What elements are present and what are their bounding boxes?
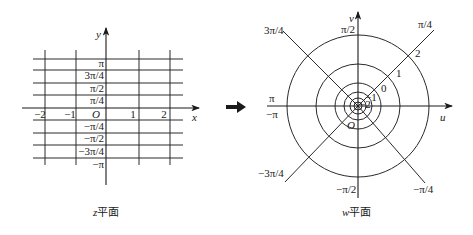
- z-y-tick: 3π/4: [84, 69, 104, 81]
- w-plane-caption: w平面: [342, 206, 371, 218]
- mapping-diagram: y x π 3π/4 π/2 π/4 O −π/4 −π/2 −3π/4 −π …: [0, 0, 473, 235]
- z-x-tick: 2: [161, 108, 167, 120]
- z-y-tick: −π/4: [84, 120, 105, 132]
- z-plane-caption: z平面: [92, 206, 119, 218]
- w-angle-label-bottom: −π/2: [336, 183, 356, 195]
- w-circle-label: 2: [415, 47, 421, 59]
- z-x-tick: −2: [34, 108, 46, 120]
- z-caption-text: 平面: [97, 206, 119, 218]
- w-caption-text: 平面: [349, 206, 371, 218]
- z-y-tick: −3π/4: [78, 145, 104, 157]
- w-circle-label: 1: [396, 67, 402, 79]
- z-y-tick: π/4: [90, 94, 105, 106]
- z-y-axis-label: y: [95, 28, 101, 40]
- right-arrow-icon: [226, 101, 246, 113]
- w-ray-3pi4: [283, 31, 358, 106]
- w-circle-label: −2: [359, 98, 371, 110]
- w-plane: v u π/2 π/4 3π/4 π −π −3π/4 −π/2 −π/4 2 …: [258, 12, 452, 218]
- w-origin-label: O: [347, 119, 355, 131]
- w-u-axis-label: u: [440, 111, 446, 123]
- w-angle-label-top: π/2: [341, 23, 355, 35]
- z-x-tick: 1: [130, 108, 136, 120]
- z-origin-label: O: [92, 108, 100, 120]
- w-ray-negpi4: [358, 106, 425, 183]
- z-x-axis-label: x: [191, 111, 197, 123]
- z-y-tick: π/2: [90, 82, 104, 94]
- z-x-tick: −1: [64, 108, 76, 120]
- w-angle-label-pi: π: [269, 92, 275, 104]
- w-angle-label-top-left: 3π/4: [264, 24, 284, 36]
- w-angle-label-neg-pi: −π: [266, 108, 278, 120]
- w-ray-neg3pi4: [285, 106, 358, 182]
- w-circle-label: 0: [381, 82, 387, 94]
- w-angle-label-bottom-left: −3π/4: [258, 167, 284, 179]
- w-angle-label-top-right: π/4: [418, 18, 433, 30]
- z-y-tick: −π/2: [84, 132, 104, 144]
- z-plane: y x π 3π/4 π/2 π/4 O −π/4 −π/2 −3π/4 −π …: [22, 28, 199, 218]
- z-y-tick: −π: [92, 158, 104, 170]
- w-angle-label-bottom-right: −π/4: [413, 183, 434, 195]
- z-y-tick: π: [98, 57, 104, 69]
